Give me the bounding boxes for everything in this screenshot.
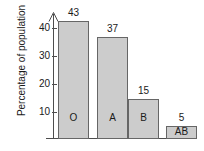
bar-value-ab: 5	[166, 113, 197, 123]
bar-category-label-a: A	[97, 113, 128, 123]
plot-area: 43 O 37 A 15 B 5 AB	[0, 0, 204, 151]
bar-value-a: 37	[97, 24, 128, 34]
bar-value-o: 43	[58, 8, 89, 18]
bar-category-label-o: O	[58, 113, 89, 123]
bar-chart: Percentage of population 40 30 20 10 43 …	[0, 0, 204, 151]
bar-a	[97, 37, 128, 139]
bar-category-label-b: B	[128, 113, 159, 123]
bar-category-label-ab: AB	[166, 127, 197, 137]
bar-value-b: 15	[128, 86, 159, 96]
